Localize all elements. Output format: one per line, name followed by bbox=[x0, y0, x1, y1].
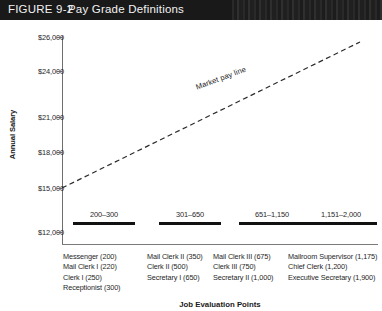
figure-header-bar: FIGURE 9-2 Pay Grade Definitions bbox=[0, 0, 382, 20]
pay-grade-range-label: 200–300 bbox=[66, 210, 142, 219]
job-title-entry: Secretary I (650) bbox=[147, 273, 203, 283]
figure-title: Pay Grade Definitions bbox=[68, 3, 184, 15]
pay-grade-bar bbox=[305, 222, 377, 225]
job-title-entry: Clerk II (500) bbox=[147, 262, 203, 272]
y-tick-mark bbox=[57, 117, 62, 118]
y-axis-title: Annual Salary bbox=[8, 100, 17, 170]
job-title-entry: Executive Secretary (1,900) bbox=[288, 273, 377, 283]
job-title-entry: Receptionist (300) bbox=[63, 283, 120, 293]
pay-grade-range-label: 301–650 bbox=[152, 210, 228, 219]
job-title-entry: Chief Clerk (1,200) bbox=[288, 262, 377, 272]
job-title-entry: Mail Clerk II (350) bbox=[147, 252, 203, 262]
pay-grade-bar bbox=[73, 222, 135, 225]
job-title-entry: Messenger (200) bbox=[63, 252, 120, 262]
y-tick-mark bbox=[57, 232, 62, 233]
figure-number-label: FIGURE 9-2 bbox=[8, 3, 73, 15]
job-column-1: Messenger (200)Mail Clerk I (220)Clerk I… bbox=[63, 252, 120, 294]
x-axis-line bbox=[62, 244, 378, 245]
market-pay-line-label: Market pay line bbox=[194, 65, 247, 92]
job-column-2: Mail Clerk II (350)Clerk II (500)Secreta… bbox=[147, 252, 203, 283]
job-title-entry: Mailroom Supervisor (1,175) bbox=[288, 252, 377, 262]
pay-grade-bar bbox=[159, 222, 221, 225]
job-column-4: Mailroom Supervisor (1,175)Chief Clerk (… bbox=[288, 252, 377, 283]
y-tick-mark bbox=[57, 152, 62, 153]
job-column-3: Mail Clerk III (675)Clerk III (750)Secre… bbox=[213, 252, 273, 283]
job-title-entry: Clerk III (750) bbox=[213, 262, 273, 272]
job-title-entry: Clerk I (250) bbox=[63, 273, 120, 283]
pay-grade-bar bbox=[239, 222, 305, 225]
pay-grade-range-label: 1,151–2,000 bbox=[300, 210, 382, 219]
x-axis-title: Job Evaluation Points bbox=[62, 300, 378, 309]
y-tick-mark bbox=[57, 188, 62, 189]
job-title-entry: Mail Clerk I (220) bbox=[63, 262, 120, 272]
y-tick-mark bbox=[57, 37, 62, 38]
job-title-entry: Mail Clerk III (675) bbox=[213, 252, 273, 262]
job-title-entry: Secretary II (1,000) bbox=[213, 273, 273, 283]
y-tick-mark bbox=[57, 71, 62, 72]
